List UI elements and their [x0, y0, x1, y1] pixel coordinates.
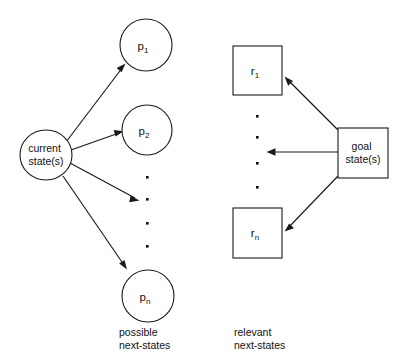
left-edges-group [63, 64, 140, 270]
right-ellipsis-dot-1 [256, 115, 259, 118]
node-p2-subscript: 2 [145, 131, 150, 140]
state-space-diagram: current state(s) p1 p2 [0, 0, 404, 361]
goal-state-line1: goal [352, 140, 372, 152]
left-panel-caption: possible next-states [119, 326, 170, 351]
edge-goal-to-rn [288, 176, 338, 228]
left-ellipsis-dot-3 [146, 222, 149, 225]
node-current-state[interactable]: current state(s) [20, 130, 72, 180]
node-rn-subscript: n [255, 233, 259, 242]
edge-current-to-pn [63, 176, 124, 265]
left-ellipsis-dot-4 [146, 245, 149, 248]
node-rn[interactable]: rn [233, 208, 282, 258]
node-p2[interactable]: p2 [122, 105, 172, 155]
right-ellipsis-dots [256, 115, 259, 189]
edge-current-to-p2 [71, 133, 119, 150]
right-ellipsis-dot-4 [256, 186, 259, 189]
arrowhead-right-ellipsis [267, 148, 276, 156]
current-state-line1: current [28, 142, 61, 154]
node-current-state-label: current state(s) [28, 142, 64, 167]
right-ellipsis-dot-2 [256, 136, 259, 139]
node-p1-subscript: 1 [144, 46, 149, 55]
right-panel-group: r1 rn goal state(s) [233, 46, 388, 351]
node-goal-state[interactable]: goal state(s) [338, 128, 388, 178]
left-panel-group: current state(s) p1 p2 [20, 19, 174, 351]
node-r1-subscript: 1 [255, 71, 260, 80]
arrowhead-pn [119, 260, 127, 270]
current-state-line2: state(s) [28, 155, 63, 167]
arrowhead-p1 [117, 64, 126, 73]
node-pn[interactable]: pn [122, 270, 174, 322]
node-p1[interactable]: p1 [120, 19, 172, 71]
edge-goal-to-r1 [288, 80, 338, 130]
node-pn-subscript: n [146, 297, 150, 306]
right-caption-line1: relevant [234, 326, 271, 338]
right-caption-line2: next-states [234, 339, 285, 351]
edge-current-to-ellipsis [70, 163, 135, 198]
goal-state-line2: state(s) [345, 153, 380, 165]
right-panel-caption: relevant next-states [234, 326, 285, 351]
right-ellipsis-dot-3 [256, 162, 259, 165]
arrowhead-ellipsis [129, 196, 139, 203]
arrowhead-rn [285, 224, 295, 232]
left-ellipsis-dots [146, 176, 149, 248]
left-caption-line2: next-states [119, 339, 170, 351]
left-ellipsis-dot-1 [146, 176, 149, 179]
node-r1[interactable]: r1 [233, 46, 282, 95]
left-caption-line1: possible [119, 326, 158, 338]
left-ellipsis-dot-2 [146, 198, 149, 201]
